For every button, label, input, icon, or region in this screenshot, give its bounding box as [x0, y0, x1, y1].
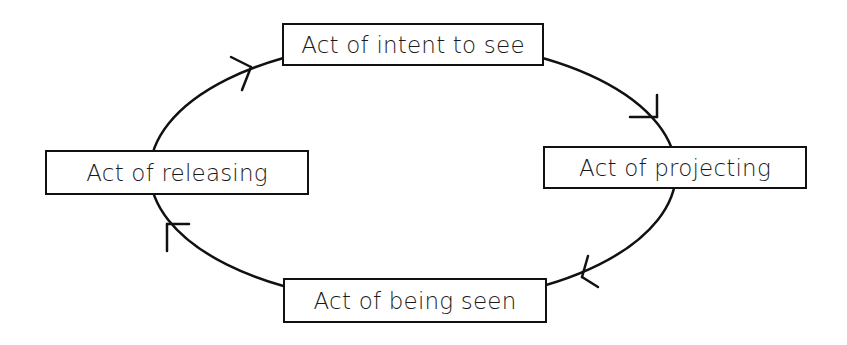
node-projecting: Act of projecting — [543, 146, 807, 189]
arrow-right-to-bottom-icon — [582, 256, 598, 287]
node-being-seen: Act of being seen — [283, 278, 547, 323]
node-label: Act of releasing — [86, 160, 267, 186]
node-label: Act of being seen — [314, 288, 517, 314]
node-label: Act of intent to see — [301, 32, 525, 58]
node-intent-to-see: Act of intent to see — [282, 23, 544, 66]
arrow-top-to-right-icon — [630, 95, 657, 117]
node-label: Act of projecting — [579, 155, 771, 181]
node-releasing: Act of releasing — [45, 150, 309, 195]
cycle-diagram: Act of intent to see Act of projecting A… — [0, 0, 847, 345]
